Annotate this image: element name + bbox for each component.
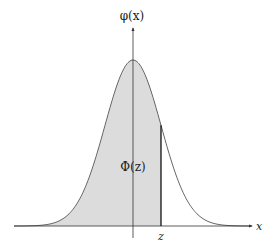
normal-distribution-diagram: φ(x) x Φ(z) z (0, 0, 275, 250)
y-axis-label: φ(x) (120, 9, 145, 23)
x-axis-label: x (256, 220, 263, 233)
shaded-area-phi-z (14, 60, 161, 226)
z-tick-label: z (157, 230, 164, 243)
area-label: Φ(z) (120, 160, 146, 174)
